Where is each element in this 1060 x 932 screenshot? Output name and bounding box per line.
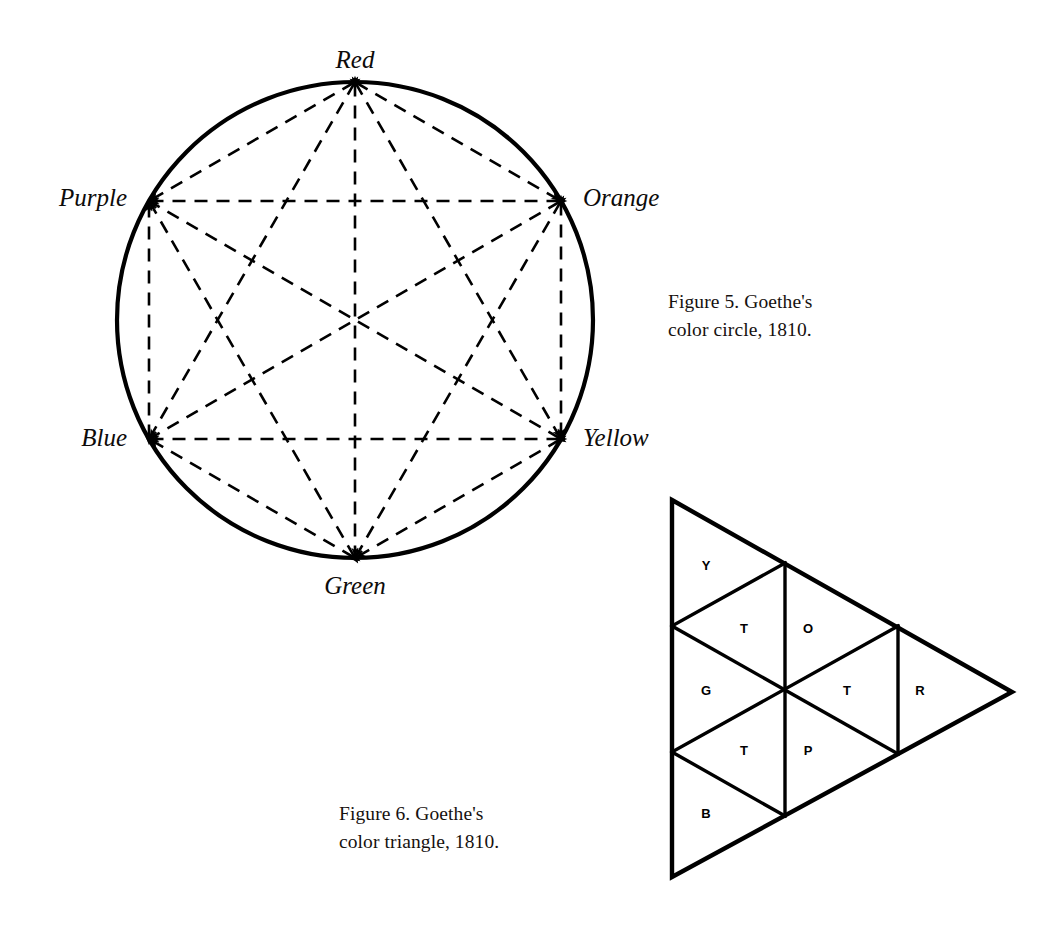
triangle-red-cell: R [915, 683, 925, 698]
chord-red-orange [356, 83, 559, 201]
color-label-blue: Blue [81, 424, 127, 451]
goethe-color-circle-diagram: RedOrangeYellowGreenBluePurple [0, 0, 680, 620]
triangle-yellow-cell: Y [702, 558, 711, 573]
color-label-yellow: Yellow [583, 424, 649, 451]
color-label-green: Green [324, 572, 386, 599]
triangle-orange-cell: O [803, 621, 813, 636]
triangle-upper-left-t-cell: T [740, 621, 748, 636]
triangle-cell-letters: YTOGTRTPB [701, 558, 925, 821]
figure-5-caption: Figure 5. Goethe's color circle, 1810. [668, 288, 968, 343]
figure-6-caption: Figure 6. Goethe's color triangle, 1810. [339, 800, 639, 855]
chord-red-purple [150, 83, 353, 201]
triangle-outline [672, 500, 1012, 877]
triangle-green-cell: G [701, 683, 711, 698]
triangle-purple-cell: P [804, 743, 813, 758]
chord-yellow-green [356, 440, 559, 558]
goethe-color-triangle-diagram: YTOGTRTPB [620, 470, 1050, 910]
chord-green-blue [150, 440, 353, 558]
triangle-right-t-cell: T [843, 683, 851, 698]
triangle-lower-left-t-cell: T [740, 743, 748, 758]
chord-green-purple [150, 202, 355, 556]
color-relationship-lines [149, 83, 561, 558]
figure-page: RedOrangeYellowGreenBluePurple Figure 5.… [0, 0, 1060, 932]
color-label-orange: Orange [583, 184, 659, 211]
color-label-red: Red [335, 46, 375, 73]
color-label-purple: Purple [58, 184, 127, 211]
triangle-blue-cell: B [701, 806, 710, 821]
